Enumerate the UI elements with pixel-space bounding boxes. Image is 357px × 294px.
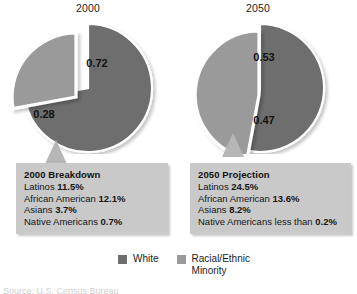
callout-row: African American 12.1% — [24, 193, 161, 205]
callout-row-value: 3.7% — [55, 204, 77, 215]
callout-row-value: 0.2% — [315, 216, 337, 227]
legend-label-minority: Racial/Ethnic Minority — [192, 253, 250, 276]
legend-item-white: White — [118, 253, 159, 265]
callout-row-value: 0.7% — [101, 216, 123, 227]
callout-row-value: 11.5% — [57, 181, 83, 192]
callout-pointer-2050 — [222, 133, 244, 157]
chart-title-2000: 2000 — [58, 2, 118, 14]
slice-minority-2000 — [12, 33, 76, 109]
chart-legend: White Racial/Ethnic Minority — [118, 253, 250, 276]
callout-row-name: African American — [24, 193, 98, 204]
callout-row: African American 13.6% — [198, 193, 344, 205]
callout-row-name: African American — [198, 193, 272, 204]
legend-swatch-icon — [177, 255, 186, 264]
callout-row-value: 24.5% — [231, 181, 258, 192]
callout-box-2000: 2000 Breakdown Latinos 11.5% African Ame… — [16, 163, 168, 234]
source-caption: Source: U.S. Census Bureau — [3, 286, 119, 294]
callout-row-name: Asians — [198, 204, 229, 215]
slice-value-minority-2000: 0.28 — [33, 108, 54, 120]
legend-label-white: White — [133, 253, 159, 265]
callout-row-name: Latinos — [24, 181, 57, 192]
legend-item-minority: Racial/Ethnic Minority — [177, 253, 250, 276]
callout-row-value: 8.2% — [229, 204, 251, 215]
callout-row-value: 12.1% — [98, 193, 125, 204]
callout-row-name: Asians — [24, 204, 55, 215]
callout-row-value: 13.6% — [272, 193, 299, 204]
callout-row: Native Americans less than 0.2% — [198, 216, 344, 228]
pie-chart-2050: 0.53 0.47 — [178, 14, 356, 154]
chart-title-2050: 2050 — [228, 2, 288, 14]
callout-row: Latinos 11.5% — [24, 181, 161, 193]
callout-title-2050: 2050 Projection — [198, 169, 344, 180]
callout-row-name: Latinos — [198, 181, 231, 192]
callout-pointer-2000 — [45, 140, 67, 164]
callout-row: Asians 3.7% — [24, 204, 161, 216]
callout-row-name: Native Americans — [24, 216, 101, 227]
callout-row: Native Americans 0.7% — [24, 216, 161, 228]
figure-root: 2000 2050 0.72 0.28 — [0, 0, 357, 294]
legend-swatch-icon — [118, 255, 127, 264]
callout-row: Asians 8.2% — [198, 204, 344, 216]
callout-box-2050: 2050 Projection Latinos 24.5% African Am… — [190, 163, 351, 234]
slice-value-minority-2050: 0.47 — [253, 114, 274, 126]
slice-value-white-2050: 0.53 — [253, 51, 274, 63]
callout-row-name: Native Americans less than — [198, 216, 315, 227]
callout-row: Latinos 24.5% — [198, 181, 344, 193]
slice-value-white-2000: 0.72 — [86, 57, 107, 69]
callout-title-2000: 2000 Breakdown — [24, 169, 161, 180]
pie-chart-2000: 0.72 0.28 — [0, 14, 178, 154]
